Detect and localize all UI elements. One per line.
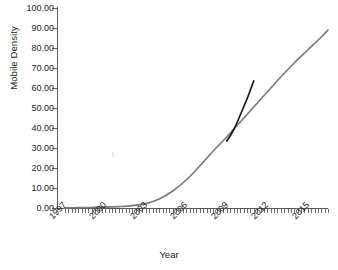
x-minor-tick — [325, 209, 326, 213]
x-minor-tick — [149, 209, 150, 213]
x-minor-tick — [68, 209, 69, 213]
x-minor-tick — [230, 209, 231, 213]
y-tick-mark — [52, 48, 57, 49]
x-minor-tick — [153, 209, 154, 213]
x-minor-tick — [315, 209, 316, 213]
x-minor-tick — [163, 209, 164, 213]
x-minor-tick — [281, 209, 282, 213]
y-tick-mark — [52, 148, 57, 149]
y-tick-mark — [52, 28, 57, 29]
x-minor-tick — [274, 209, 275, 213]
scan-artifact — [112, 152, 114, 157]
x-minor-tick — [234, 209, 235, 213]
x-minor-tick — [284, 209, 285, 213]
series-line-projected-mobile-density — [65, 30, 328, 208]
x-minor-tick — [288, 209, 289, 213]
x-minor-tick — [311, 209, 312, 213]
x-minor-tick — [196, 209, 197, 213]
series-layer — [0, 0, 338, 270]
x-minor-tick — [244, 209, 245, 213]
y-tick-mark — [52, 88, 57, 89]
x-minor-tick — [200, 209, 201, 213]
x-minor-tick — [109, 209, 110, 213]
y-tick-mark — [52, 108, 57, 109]
x-minor-tick — [156, 209, 157, 213]
mobile-density-chart: Mobile Density 0.0010.0020.0030.0040.005… — [0, 0, 338, 270]
x-minor-tick — [119, 209, 120, 213]
x-axis-title: Year — [0, 249, 338, 260]
x-minor-tick — [72, 209, 73, 213]
x-minor-tick — [78, 209, 79, 213]
x-minor-tick — [82, 209, 83, 213]
x-minor-tick — [85, 209, 86, 213]
y-tick-mark — [52, 168, 57, 169]
x-minor-tick — [207, 209, 208, 213]
x-minor-tick — [115, 209, 116, 213]
x-minor-tick — [159, 209, 160, 213]
x-minor-tick — [166, 209, 167, 213]
y-tick-mark — [52, 128, 57, 129]
y-tick-mark — [52, 188, 57, 189]
x-minor-tick — [190, 209, 191, 213]
x-minor-tick — [240, 209, 241, 213]
x-minor-tick — [75, 209, 76, 213]
y-tick-mark — [52, 8, 57, 9]
x-minor-tick — [126, 209, 127, 213]
x-minor-tick — [321, 209, 322, 213]
x-minor-tick — [122, 209, 123, 213]
x-minor-tick — [237, 209, 238, 213]
x-minor-tick — [193, 209, 194, 213]
y-tick-mark — [52, 68, 57, 69]
x-minor-tick — [247, 209, 248, 213]
x-minor-tick — [112, 209, 113, 213]
x-minor-tick — [328, 209, 329, 213]
x-minor-tick — [203, 209, 204, 213]
x-minor-tick — [271, 209, 272, 213]
y-tick-mark — [52, 208, 57, 209]
x-minor-tick — [277, 209, 278, 213]
x-minor-tick — [318, 209, 319, 213]
